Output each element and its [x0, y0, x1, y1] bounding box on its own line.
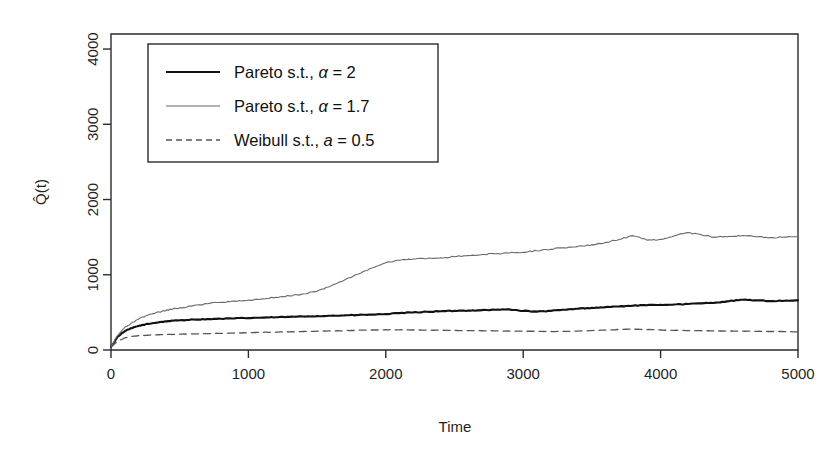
legend-label-suffix: = 0.5	[333, 131, 375, 149]
legend-label-suffix: = 1.7	[328, 97, 370, 115]
legend-label-2: Pareto s.t., α = 1.7	[234, 97, 370, 115]
x-tick-label: 4000	[644, 365, 677, 382]
line-chart: 01000200030004000500001000200030004000 P…	[0, 0, 834, 463]
y-tick-label: 2000	[84, 183, 101, 216]
legend-label-1: Pareto s.t., α = 2	[234, 63, 356, 81]
x-axis-title: Time	[439, 418, 472, 435]
x-tick-label: 1000	[232, 365, 265, 382]
legend-label-symbol: a	[324, 131, 333, 149]
x-tick-label: 0	[107, 365, 115, 382]
legend-label-prefix: Pareto s.t.,	[234, 97, 318, 115]
x-tick-label: 2000	[369, 365, 402, 382]
y-tick-label: 3000	[84, 108, 101, 141]
x-tick-label: 5000	[781, 365, 814, 382]
y-tick-label: 4000	[84, 32, 101, 65]
legend-label-3: Weibull s.t., a = 0.5	[234, 131, 375, 149]
chart-legend: Pareto s.t., α = 2Pareto s.t., α = 1.7We…	[148, 44, 438, 162]
legend-label-prefix: Weibull s.t.,	[234, 131, 324, 149]
y-tick-label: 0	[84, 346, 101, 354]
legend-label-prefix: Pareto s.t.,	[234, 63, 318, 81]
y-tick-label: 1000	[84, 258, 101, 291]
chart-figure: 01000200030004000500001000200030004000 P…	[0, 0, 834, 463]
y-axis-title: Q̂(t)	[32, 179, 49, 205]
x-tick-label: 3000	[507, 365, 540, 382]
legend-label-suffix: = 2	[328, 63, 356, 81]
